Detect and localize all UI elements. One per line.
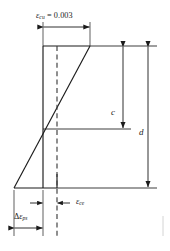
epsilon-ps-subscript: ps [23,215,28,221]
ece-label: εce [76,198,84,207]
c-label: c [111,108,115,117]
reference-lines [43,46,157,188]
top-strain-dimension [43,22,90,46]
top-strain-label: εcu = 0.003 [36,12,73,21]
strain-profile-line [14,46,90,188]
strain-diagram-figure: εcu = 0.003 c d εce Δεps [0,0,170,251]
equals-sign: = [45,11,54,20]
epsilon-ce-subscript: ce [79,200,84,206]
deps-label: Δεps [14,213,27,222]
strain-value: 0.003 [54,11,73,20]
d-label: d [139,128,144,137]
